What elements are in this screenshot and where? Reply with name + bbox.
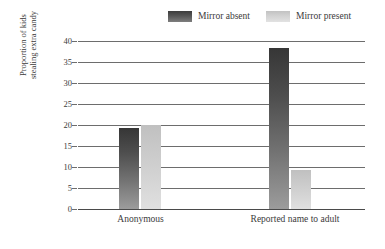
y-tick-mark-20 [72,125,77,126]
y-tick-mark-30 [72,83,77,84]
y-tick-mark-40 [72,41,77,42]
y-tick-mark-5 [72,188,77,189]
gridline-40: 40 [78,41,365,42]
legend-label-mirror-present: Mirror present [296,11,351,22]
y-tick-label-25: 25 [52,104,72,105]
figure-bar-chart: Mirror absent Mirror present Proportion … [0,0,385,249]
legend-entry-mirror-absent: Mirror absent [168,11,250,22]
bar-reported-name-to-adult-mirror-present [291,170,311,209]
gridline-25: 25 [78,104,365,105]
gridline-20: 20 [78,125,365,126]
legend-swatch-icon-mirror-absent [168,11,192,22]
bar-anonymous-mirror-absent [119,128,139,209]
y-tick-label-15: 15 [52,146,72,147]
plot-area: 0510152025303540 [78,41,365,209]
y-tick-mark-25 [72,104,77,105]
y-axis-title-line-1: Proportion of kids [18,14,28,76]
legend-label-mirror-absent: Mirror absent [198,11,250,22]
bar-reported-name-to-adult-mirror-absent [269,48,289,209]
y-axis-title-line-2: stealing extra candy [28,11,38,79]
bar-anonymous-mirror-present [141,125,161,209]
y-tick-label-20: 20 [52,125,72,126]
legend-swatch-icon-mirror-present [266,11,290,22]
legend-entry-mirror-present: Mirror present [266,11,351,22]
gridline-0: 0 [78,209,365,210]
y-tick-mark-10 [72,167,77,168]
y-tick-label-10: 10 [52,167,72,168]
y-tick-mark-35 [72,62,77,63]
y-tick-mark-15 [72,146,77,147]
gridline-30: 30 [78,83,365,84]
x-category-label-reported-name-to-adult: Reported name to adult [225,213,365,225]
chart-legend: Mirror absent Mirror present [168,8,380,24]
gridline-35: 35 [78,62,365,63]
y-tick-label-40: 40 [52,41,72,42]
y-tick-label-0: 0 [52,209,72,210]
y-axis-title: Proportion of kids stealing extra candy [14,0,42,100]
y-tick-label-35: 35 [52,62,72,63]
y-tick-mark-0 [72,209,77,210]
y-tick-label-5: 5 [52,188,72,189]
x-category-label-anonymous: Anonymous [78,213,203,225]
y-tick-label-30: 30 [52,83,72,84]
